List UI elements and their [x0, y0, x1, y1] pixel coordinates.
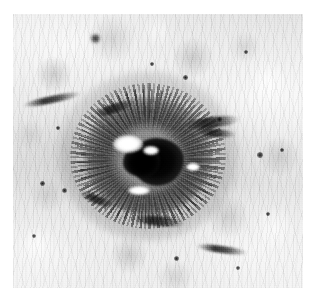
image-diagonal-grain-2 [13, 14, 303, 288]
speck-upper-mid [150, 62, 154, 66]
rim-streak-lower-left [78, 189, 118, 211]
speck-bottom [174, 256, 179, 261]
crater-lesion [84, 97, 212, 215]
speck-bottom-left [32, 234, 36, 238]
crater-core [132, 138, 184, 186]
speck-right [257, 152, 263, 158]
crater-halo [58, 71, 238, 241]
background-streak-bottom [196, 242, 248, 256]
lateral-streak-right-lower [196, 127, 237, 138]
image-vignette [13, 14, 303, 288]
crater-radial-spikes [70, 83, 226, 229]
pit-highlight-inner [143, 146, 159, 155]
crater-radial-spikes-inner [76, 89, 220, 223]
image-features [13, 14, 303, 288]
pit-highlight-upper-left [113, 135, 143, 153]
rim-highlight-lower [128, 186, 150, 195]
speck-upper-right [183, 75, 188, 80]
background-streak-left [22, 90, 82, 109]
rim-streak-upper-left [92, 97, 137, 119]
image-horizontal-grain [13, 14, 303, 288]
speck-lower-right [266, 212, 270, 216]
lateral-streak-right [184, 114, 241, 132]
speck-top-right [244, 50, 248, 54]
image-bright-washes [13, 14, 303, 288]
image-diagonal-grain [13, 14, 303, 288]
image-mottled-texture [13, 14, 303, 288]
speck-bottom-right [236, 266, 240, 270]
figure-caption: Grayscale photograph of a crater-like pi… [0, 0, 1, 1]
rim-streak-lower [132, 213, 187, 229]
image-base-tone [13, 14, 303, 288]
micrograph-image [13, 14, 303, 288]
speck-left [40, 181, 45, 186]
speck-top [91, 34, 100, 43]
image-film-grain [13, 14, 303, 288]
page-root: Grayscale photograph of a crater-like pi… [0, 0, 315, 300]
crater-core-inner [123, 145, 160, 177]
rim-highlight-right [186, 163, 200, 171]
speck-mid-left [56, 126, 60, 130]
speck-right-upper [217, 117, 222, 122]
crater-rim [84, 97, 212, 215]
speck-right-far [280, 148, 284, 152]
speck-left-lower [62, 188, 67, 193]
